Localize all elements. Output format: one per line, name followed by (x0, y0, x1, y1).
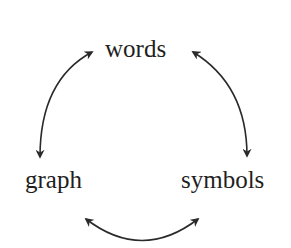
arrow-words-symbols (193, 52, 247, 156)
arrow-words-graph (40, 52, 92, 157)
node-symbols: symbols (181, 166, 264, 193)
cycle-diagram: words graph symbols (0, 0, 291, 248)
node-words: words (105, 35, 166, 62)
arrow-graph-symbols (86, 219, 198, 241)
node-graph: graph (25, 166, 82, 193)
